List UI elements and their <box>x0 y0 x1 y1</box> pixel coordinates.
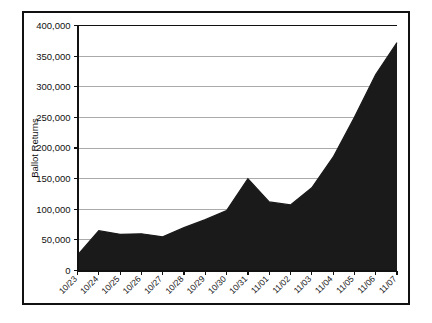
y-axis-title: Ballot Returns <box>29 118 40 178</box>
x-tick-label: 10/26 <box>121 274 143 296</box>
y-axis-title-group: Ballot Returns <box>29 118 40 178</box>
x-tick-label: 10/23 <box>57 274 79 296</box>
x-tick-label: 11/02 <box>270 274 292 296</box>
plot-wrapper: 050,000100,000150,000200,000250,000300,0… <box>0 0 432 323</box>
x-tick-label: 11/06 <box>355 274 377 296</box>
x-tick-label: 11/01 <box>249 274 271 296</box>
y-tick-label: 50,000 <box>41 234 70 245</box>
x-tick-label: 10/30 <box>206 274 228 296</box>
y-tick-label: 0 <box>65 265 70 276</box>
y-tick-group: 050,000100,000150,000200,000250,000300,0… <box>36 20 77 276</box>
x-tick-label: 11/05 <box>334 274 356 296</box>
x-tick-label: 10/28 <box>163 274 185 296</box>
y-tick-label: 250,000 <box>36 112 70 123</box>
x-tick-label: 11/03 <box>292 274 314 296</box>
x-tick-label: 10/24 <box>78 274 100 296</box>
y-tick-label: 100,000 <box>36 204 70 215</box>
y-tick-label: 200,000 <box>36 142 70 153</box>
x-tick-label: 11/07 <box>377 274 399 296</box>
x-tick-label: 10/27 <box>142 274 164 296</box>
y-tick-label: 400,000 <box>36 20 70 31</box>
area-fill <box>78 43 398 271</box>
chart-figure: 050,000100,000150,000200,000250,000300,0… <box>0 0 432 323</box>
x-tick-label: 10/25 <box>99 274 121 296</box>
x-tick-label: 11/04 <box>313 274 335 296</box>
area-series-group <box>78 43 398 271</box>
x-tick-label: 10/31 <box>227 274 249 296</box>
x-tick-group: 10/2310/2410/2510/2610/2710/2810/2910/30… <box>57 271 399 296</box>
y-tick-label: 150,000 <box>36 173 70 184</box>
x-tick-label: 10/29 <box>185 274 207 296</box>
y-tick-label: 350,000 <box>36 51 70 62</box>
area-chart-svg: 050,000100,000150,000200,000250,000300,0… <box>0 0 432 323</box>
y-tick-label: 300,000 <box>36 81 70 92</box>
